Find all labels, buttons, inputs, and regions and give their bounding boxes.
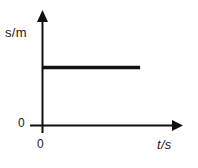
y-axis-origin-tick-label: 0 [18,117,25,130]
y-axis-arrowhead [37,10,48,22]
displacement-time-graph-figure: s/m t/s 0 0 [0,0,198,168]
x-axis-origin-tick-label: 0 [37,138,44,151]
x-axis-label: t/s [157,138,172,152]
y-axis-label: s/m [5,26,27,40]
x-axis-arrowhead [172,120,183,131]
